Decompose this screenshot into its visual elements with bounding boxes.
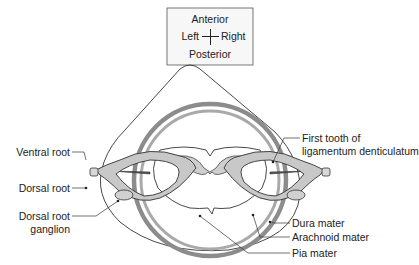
anterior-label: Anterior bbox=[192, 13, 229, 25]
first-tooth-label-line2: ligamentum denticulatum bbox=[302, 145, 419, 157]
dorsal-root-label: Dorsal root bbox=[19, 182, 70, 194]
spinal-cord-diagram: Anterior Left Right Posterior bbox=[0, 0, 419, 265]
left-label: Left bbox=[181, 30, 199, 42]
dorsal-root-ganglion-label-line2: ganglion bbox=[30, 223, 70, 235]
arachnoid-mater-label: Arachnoid mater bbox=[292, 231, 370, 243]
posterior-label: Posterior bbox=[189, 48, 232, 60]
ventral-root-label: Ventral root bbox=[16, 146, 70, 158]
right-label: Right bbox=[221, 30, 246, 42]
first-tooth-label-line1: First tooth of bbox=[302, 132, 360, 144]
dorsal-root-ganglion-label-line1: Dorsal root bbox=[19, 210, 70, 222]
dura-mater-label: Dura mater bbox=[292, 217, 345, 229]
orientation-box: Anterior Left Right Posterior bbox=[167, 8, 253, 65]
pia-mater-label: Pia mater bbox=[292, 247, 337, 259]
